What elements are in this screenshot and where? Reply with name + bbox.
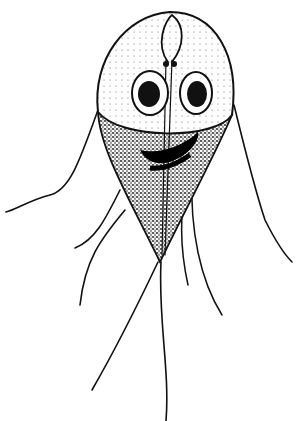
nucleus-left bbox=[132, 71, 168, 115]
nucleus-right bbox=[180, 72, 212, 114]
giardia-drawing bbox=[0, 0, 300, 421]
illustration-canvas bbox=[0, 0, 300, 421]
